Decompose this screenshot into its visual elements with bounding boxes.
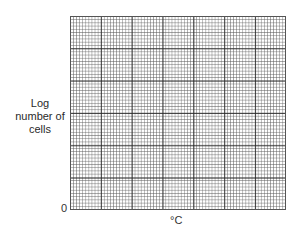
y-axis-label-line-1: Log xyxy=(12,97,68,110)
y-axis-label: Log number of cells xyxy=(12,97,68,136)
y-axis-label-line-3: cells xyxy=(12,123,68,136)
origin-tick-label: 0 xyxy=(61,202,67,214)
y-axis-label-line-2: number of xyxy=(12,110,68,123)
graph-paper-plot-area xyxy=(70,16,286,210)
x-axis-label: °C xyxy=(170,214,182,226)
